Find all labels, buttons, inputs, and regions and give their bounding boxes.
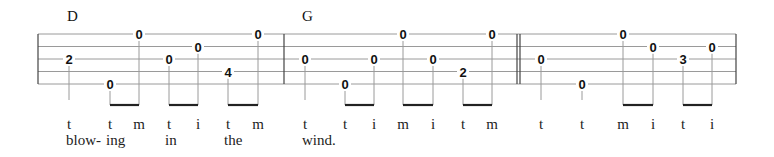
fret-number: 0 (106, 77, 113, 92)
finger-label: i (651, 116, 655, 132)
banjo-tablature: 20000400000020000030 DG ttmtitmttimitmtt… (0, 0, 774, 157)
lyric-word: the (224, 132, 243, 148)
finger-label: t (539, 116, 544, 132)
finger-label: t (461, 116, 466, 132)
fret-number: 0 (254, 27, 261, 42)
chord-label: G (302, 8, 313, 24)
fret-number: 0 (488, 27, 495, 42)
finger-label: t (681, 116, 686, 132)
lyric-word: wind. (302, 132, 336, 148)
finger-label: t (67, 116, 72, 132)
lyric-word: ing (106, 132, 126, 148)
finger-label: m (486, 116, 498, 132)
fret-number: 0 (429, 52, 436, 67)
finger-label: m (617, 116, 629, 132)
finger-label: m (397, 116, 409, 132)
finger-label: t (343, 116, 348, 132)
fret-number: 0 (537, 52, 544, 67)
finger-label: t (580, 116, 585, 132)
fret-number: 0 (165, 52, 172, 67)
lyric-word: in (165, 132, 177, 148)
lyric-word: blow- (66, 132, 101, 148)
finger-label: i (431, 116, 435, 132)
finger-label: m (133, 116, 145, 132)
fret-number: 0 (341, 77, 348, 92)
fret-number: 0 (399, 27, 406, 42)
finger-labels: ttmtitmttimitmttmiti (67, 116, 714, 132)
finger-label: t (303, 116, 308, 132)
fret-number: 0 (194, 40, 201, 55)
chord-labels: DG (67, 8, 313, 24)
note-stems (69, 41, 712, 105)
fret-number: 3 (679, 52, 686, 67)
fret-number: 0 (578, 77, 585, 92)
fret-number: 0 (301, 52, 308, 67)
lyrics: blow-inginthewind. (66, 132, 336, 148)
finger-label: i (710, 116, 714, 132)
fret-number: 0 (708, 40, 715, 55)
finger-label: t (226, 116, 231, 132)
finger-label: t (108, 116, 113, 132)
finger-label: m (252, 116, 264, 132)
finger-label: i (196, 116, 200, 132)
fret-number: 4 (224, 65, 232, 80)
chord-label: D (67, 8, 78, 24)
fret-number: 2 (459, 65, 466, 80)
fret-number: 0 (135, 27, 142, 42)
tab-staff-lines (38, 34, 736, 84)
finger-label: i (372, 116, 376, 132)
fret-number: 0 (619, 27, 626, 42)
fret-number: 2 (65, 52, 72, 67)
finger-label: t (167, 116, 172, 132)
fret-number: 0 (649, 40, 656, 55)
fret-number: 0 (370, 52, 377, 67)
